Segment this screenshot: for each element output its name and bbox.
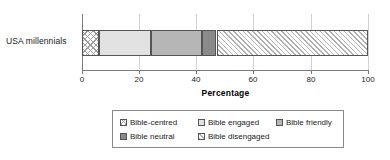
tick-label-60: 60 [249, 75, 258, 84]
x-axis-title: Percentage [82, 88, 369, 98]
tick-mark-80 [311, 70, 312, 74]
chart-legend: Bible-centred Bible engaged Bible friend… [112, 110, 344, 148]
bar-segment-bible-friendly [151, 30, 203, 56]
legend-swatch-bible-engaged-icon [198, 119, 205, 126]
bar-segment-bible-neutral [202, 30, 216, 56]
legend-swatch-bible-disengaged-icon [198, 133, 205, 140]
bar-usa-millennials [82, 30, 368, 56]
legend-label-bible-engaged: Bible engaged [208, 118, 259, 127]
tick-mark-100 [368, 70, 369, 74]
stacked-bar-chart: USA millennials 0 20 40 60 80 100 Percen… [0, 0, 390, 160]
legend-item-bible-friendly: Bible friendly [276, 118, 332, 127]
tick-label-40: 40 [192, 75, 201, 84]
bar-segment-bible-centred [82, 30, 99, 56]
x-axis-line [82, 70, 369, 71]
legend-label-bible-disengaged: Bible disengaged [208, 132, 269, 141]
tick-label-80: 80 [307, 75, 316, 84]
category-label-usa-millennials: USA millennials [6, 36, 78, 46]
legend-label-bible-neutral: Bible neutral [130, 132, 174, 141]
tick-mark-0 [82, 70, 83, 74]
legend-row-2: Bible neutral Bible disengaged [113, 129, 343, 143]
bar-segment-bible-engaged [99, 30, 151, 56]
legend-swatch-bible-friendly-icon [276, 119, 283, 126]
legend-item-bible-engaged: Bible engaged [198, 118, 276, 127]
legend-swatch-bible-centred-icon [120, 119, 127, 126]
legend-item-bible-centred: Bible-centred [120, 118, 198, 127]
tick-mark-20 [139, 70, 140, 74]
legend-item-bible-neutral: Bible neutral [120, 132, 198, 141]
tick-label-20: 20 [135, 75, 144, 84]
tick-label-0: 0 [80, 75, 84, 84]
tick-mark-40 [196, 70, 197, 74]
tick-mark-60 [253, 70, 254, 74]
legend-swatch-bible-neutral-icon [120, 133, 127, 140]
bar-segment-bible-disengaged [217, 30, 369, 56]
legend-row-1: Bible-centred Bible engaged Bible friend… [113, 115, 343, 129]
legend-label-bible-centred: Bible-centred [130, 118, 177, 127]
legend-item-bible-disengaged: Bible disengaged [198, 132, 269, 141]
legend-label-bible-friendly: Bible friendly [286, 118, 332, 127]
gridline-100 [368, 14, 369, 70]
tick-label-100: 100 [361, 75, 374, 84]
